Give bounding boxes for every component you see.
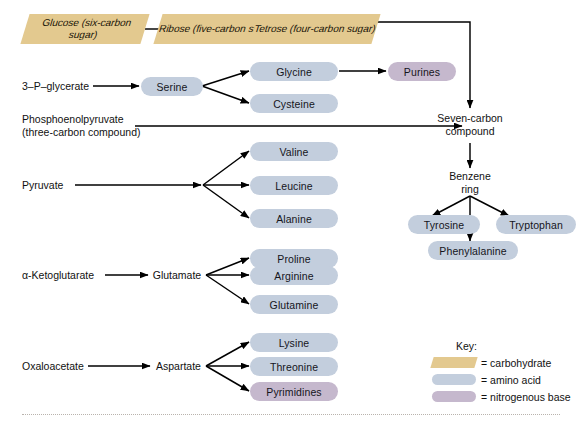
legend-label-carbohydrate: = carbohydrate bbox=[481, 357, 551, 369]
arrow-benzene-tyrosine bbox=[432, 196, 470, 216]
node-purines: Purines bbox=[388, 62, 456, 81]
node-lysine: Lysine bbox=[250, 333, 338, 352]
legend-swatch-carbohydrate bbox=[430, 357, 477, 368]
node-alanine: Alanine bbox=[250, 209, 338, 228]
node-glutamate: Glutamate bbox=[148, 268, 206, 282]
legend-title: Key: bbox=[456, 340, 477, 352]
bottom-divider bbox=[22, 414, 560, 415]
label-pyruvate: Pyruvate bbox=[22, 178, 92, 192]
node-glycine: Glycine bbox=[250, 62, 338, 81]
node-tetrose: Tetrose (four-carbon sugar) bbox=[249, 14, 380, 44]
label-3-p-glycerate: 3–P–glycerate bbox=[22, 79, 102, 93]
label-alpha-ketoglutarate: α-Ketoglutarate bbox=[22, 268, 112, 282]
legend-label-nitrogenous-base: = nitrogenous base bbox=[481, 391, 571, 403]
arrow-aspartate-pyrimidines bbox=[206, 366, 249, 391]
node-benzene-ring-line1: Benzene bbox=[434, 170, 506, 183]
node-pyrimidines: Pyrimidines bbox=[250, 382, 338, 401]
ribose-name: Ribose bbox=[158, 23, 193, 34]
legend-swatch-amino-acid bbox=[432, 374, 476, 385]
node-seven-carbon-compound-line1: Seven-carbon bbox=[424, 112, 516, 125]
arrow-pyruvate-valine bbox=[203, 151, 249, 185]
node-glutamine: Glutamine bbox=[250, 295, 338, 314]
node-tryptophan: Tryptophan bbox=[496, 215, 576, 234]
legend-row-nitrogenous-base: = nitrogenous base bbox=[432, 390, 571, 403]
glucose-name: Glucose bbox=[41, 17, 81, 28]
pathway-diagram: Glucose (six-carbon sugar) Ribose (five-… bbox=[0, 0, 582, 426]
arrow-glutamate-proline bbox=[206, 258, 249, 275]
legend-row-carbohydrate: = carbohydrate bbox=[432, 356, 551, 369]
node-threonine: Threonine bbox=[250, 357, 338, 376]
label-oxaloacetate: Oxaloacetate bbox=[22, 359, 102, 373]
node-leucine: Leucine bbox=[250, 176, 338, 195]
node-phenylalanine: Phenylalanine bbox=[428, 241, 518, 260]
node-valine: Valine bbox=[250, 142, 338, 161]
label-phosphoenolpyruvate: Phosphoenolpyruvate bbox=[22, 112, 142, 126]
node-cysteine: Cysteine bbox=[250, 94, 338, 113]
node-aspartate: Aspartate bbox=[150, 359, 207, 373]
node-seven-carbon-compound-line2: compound bbox=[424, 125, 516, 138]
label-phosphoenolpyruvate-detail: (three-carbon compound) bbox=[22, 125, 152, 139]
legend-row-amino-acid: = amino acid bbox=[432, 373, 541, 386]
arrow-aspartate-lysine bbox=[206, 342, 249, 366]
legend-label-amino-acid: = amino acid bbox=[481, 374, 541, 386]
arrow-benzene-tryptophan bbox=[470, 196, 509, 216]
node-arginine: Arginine bbox=[250, 266, 338, 285]
node-benzene-ring-line2: ring bbox=[434, 183, 506, 196]
node-serine: Serine bbox=[141, 77, 203, 96]
tetrose-detail: (four-carbon sugar) bbox=[288, 23, 377, 34]
arrow-glutamate-glutamine bbox=[206, 275, 249, 304]
legend: Key: = carbohydrate = amino acid = nitro… bbox=[432, 340, 578, 406]
node-tyrosine: Tyrosine bbox=[408, 215, 480, 234]
legend-swatch-nitrogenous-base bbox=[432, 391, 476, 402]
node-glucose: Glucose (six-carbon sugar) bbox=[20, 14, 149, 44]
arrow-pyruvate-alanine bbox=[203, 185, 249, 218]
arrow-serine-glycine bbox=[202, 71, 249, 86]
tetrose-name: Tetrose bbox=[253, 23, 289, 34]
arrow-serine-cysteine bbox=[202, 86, 249, 103]
